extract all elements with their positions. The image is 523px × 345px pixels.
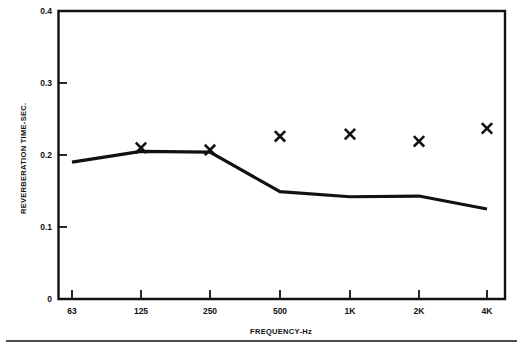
x-tick-label-6: 4K [482,306,494,316]
data-series-layer [72,123,492,209]
data-point-marker [482,123,492,133]
y-tick-label-0: 0.4 [40,6,52,16]
data-point-marker [414,136,424,146]
reverberation-time-chart: 0.4 0.3 0.2 0.1 0 REVERBERATION TIME-SEC… [0,0,523,345]
y-tick-label-4: 0 [47,294,52,304]
x-tick-label-3: 500 [273,306,287,316]
x-tick-label-2: 250 [203,306,217,316]
y-tick-label-2: 0.2 [40,150,52,160]
data-point-marker [275,131,285,141]
x-tick-label-0: 63 [67,306,77,316]
x-tick-label-5: 2K [414,306,426,316]
y-axis-title: REVERBERATION TIME-SEC. [19,103,28,214]
x-tick-label-1: 125 [134,306,148,316]
chart-figure: 0.4 0.3 0.2 0.1 0 REVERBERATION TIME-SEC… [0,0,523,345]
x-tick-label-4: 1K [345,306,357,316]
data-point-marker [345,129,355,139]
series-line-measured-curve [72,151,487,209]
y-tick-label-1: 0.3 [40,78,52,88]
x-axis-title: FREQUENCY-Hz [250,327,312,336]
y-tick-label-3: 0.1 [40,222,52,232]
